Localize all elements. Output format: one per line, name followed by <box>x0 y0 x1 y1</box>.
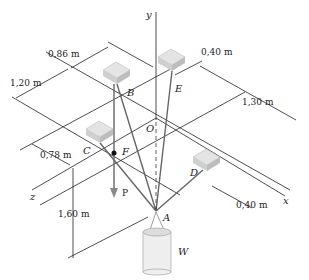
point-D-label: D <box>189 167 198 178</box>
anchor-block-B <box>103 62 130 84</box>
statics-diagram: y x z 0,86 m 1,20 m 0,40 m 1,30 m 0,78 m… <box>0 0 309 280</box>
point-C-label: C <box>83 145 91 156</box>
z-axis-label: z <box>29 191 36 202</box>
dim-label-086: 0,86 m <box>48 49 80 59</box>
anchor-block-C <box>86 121 113 143</box>
dim-label-120: 1,20 m <box>10 78 42 88</box>
grid-line-3 <box>40 92 245 205</box>
dim-label-040-top: 0,40 m <box>201 47 233 57</box>
point-O-label: O <box>146 123 154 134</box>
force-P-arrow <box>110 188 118 198</box>
force-P-label: P <box>122 188 128 198</box>
point-F-label: F <box>121 146 130 157</box>
point-B-label: B <box>126 87 134 98</box>
dim-130 <box>200 66 296 120</box>
x-axis-label: x <box>283 195 289 206</box>
point-E-label: E <box>174 83 183 94</box>
grid-line-1 <box>46 52 290 190</box>
cable-AE <box>156 71 172 211</box>
dim-label-078: 0,78 m <box>40 150 72 160</box>
grid-line-2 <box>12 97 180 195</box>
dim-label-130: 1,30 m <box>242 97 274 107</box>
y-axis-label: y <box>145 9 152 20</box>
dim-label-160: 1,60 m <box>58 209 90 219</box>
anchor-block-E <box>158 49 185 71</box>
point-F-dot <box>112 151 117 156</box>
point-A-label: A <box>162 212 170 223</box>
weight-W-label: W <box>178 246 189 257</box>
dim-160-base <box>68 217 148 258</box>
dim-label-040-bottom: 0,40 m <box>236 200 268 210</box>
